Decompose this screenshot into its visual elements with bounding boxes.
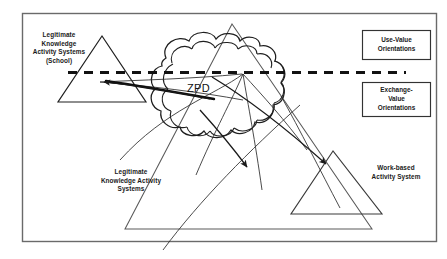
zpd-cloud-shape: [151, 32, 285, 137]
school-activity-system-label: Legitimate Knowledge Activity Systems (S…: [16, 31, 102, 65]
crossing-line-right: [281, 96, 340, 208]
work-triangle-shape: [291, 151, 382, 214]
arrow-zpd-to-mid: [200, 110, 247, 167]
diagram-canvas: Legitimate Knowledge Activity Systems (S…: [0, 0, 447, 259]
exchange-value-box-label: Exchange- Value Orientations: [363, 83, 430, 116]
legitimate-activity-systems-label: Legitimate Knowledge Activity Systems: [84, 168, 178, 194]
crossing-line-lower-left: [163, 105, 300, 250]
use-value-box-label: Use-Value Orientations: [363, 31, 430, 59]
arrow-to-work-activity-system: [212, 77, 326, 164]
work-based-activity-system-label: Work-based Activity System: [352, 164, 440, 181]
zpd-label: ZPD: [187, 82, 210, 94]
